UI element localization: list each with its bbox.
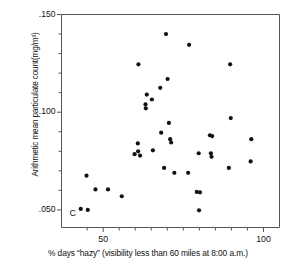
data-point	[227, 166, 231, 170]
data-point	[136, 141, 140, 145]
scatter-plot-figure: Arithmetic mean particulate count(mg/m³)…	[0, 0, 296, 268]
data-point	[150, 97, 154, 101]
data-point	[210, 134, 214, 138]
data-point	[120, 194, 124, 198]
data-point	[144, 106, 148, 110]
data-point	[162, 166, 166, 170]
data-point	[172, 171, 176, 175]
data-point	[169, 140, 173, 144]
data-point	[158, 86, 162, 90]
data-point	[136, 62, 140, 66]
data-point	[84, 174, 88, 178]
data-point	[197, 208, 201, 212]
data-point	[209, 155, 213, 159]
x-axis-ticks	[87, 228, 263, 233]
data-point	[229, 116, 233, 120]
data-point	[209, 151, 213, 155]
data-point	[228, 62, 232, 66]
data-point	[106, 187, 110, 191]
axis-frame	[62, 15, 280, 228]
y-axis-ticks	[57, 15, 62, 210]
data-point	[187, 43, 191, 47]
x-axis-caption: % days “hazy” (visibility less than 60 m…	[0, 248, 296, 258]
data-point	[198, 190, 202, 194]
x-axis-caption-text: % days “hazy” (visibility less than 60 m…	[48, 248, 248, 258]
data-point-group	[79, 32, 254, 212]
data-point	[186, 171, 190, 175]
data-point	[145, 93, 149, 97]
y-axis-label-text: Arithmetic mean particulate count(mg/m³)	[31, 32, 40, 176]
data-point	[79, 207, 83, 211]
data-point	[132, 152, 136, 156]
data-point	[86, 208, 90, 212]
data-point	[151, 148, 155, 152]
y-tick-label: .100	[0, 106, 56, 116]
data-point	[249, 137, 253, 141]
data-point	[197, 151, 201, 155]
data-point	[164, 32, 168, 36]
data-point	[159, 131, 163, 135]
y-axis-label: Arithmetic mean particulate count(mg/m³)	[31, 0, 40, 210]
y-tick-label: .050	[0, 204, 56, 214]
data-point	[143, 102, 147, 106]
x-tick-label: 50	[83, 234, 123, 244]
y-tick-label: .150	[0, 9, 56, 19]
data-point	[166, 77, 170, 81]
panel-letter: C	[70, 208, 77, 218]
x-tick-label: 100	[243, 234, 283, 244]
data-point	[167, 121, 171, 125]
data-point	[249, 159, 253, 163]
data-point	[93, 187, 97, 191]
plot-canvas	[0, 0, 296, 268]
data-point	[136, 149, 140, 153]
data-point	[138, 153, 142, 157]
